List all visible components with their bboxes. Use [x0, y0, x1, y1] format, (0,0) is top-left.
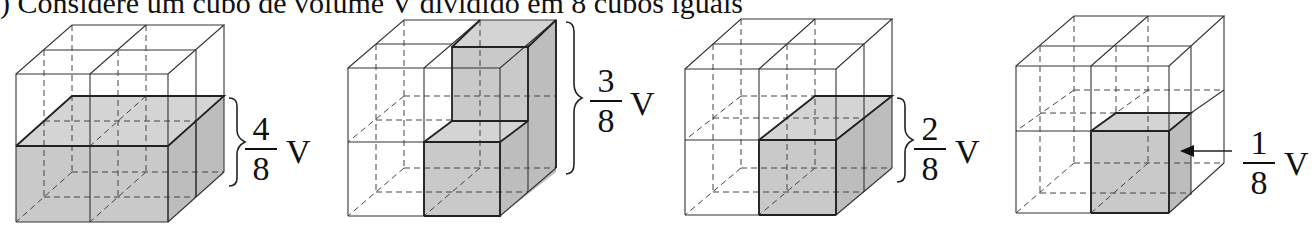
cube-two — [685, 19, 913, 215]
fraction-numerator: 3 — [590, 64, 622, 98]
cubes-figure: .e { stroke: #333; stroke-width: 1.1; fi… — [0, 0, 1312, 225]
fraction-label-one: 1 8 — [1243, 126, 1275, 200]
volume-symbol: V — [630, 85, 655, 123]
fraction-numerator: 1 — [1243, 126, 1275, 160]
cube-half — [16, 25, 245, 222]
fraction-numerator: 2 — [914, 112, 946, 146]
cube-one — [1016, 16, 1232, 213]
fraction-label-half: 4 8 — [245, 112, 277, 186]
fraction-label-three: 3 8 — [590, 64, 622, 138]
fraction-label-two: 2 8 — [914, 112, 946, 186]
volume-symbol: V — [286, 133, 311, 171]
fraction-denominator: 8 — [245, 152, 277, 186]
volume-symbol: V — [955, 133, 980, 171]
volume-symbol: V — [1284, 145, 1309, 183]
fraction-numerator: 4 — [245, 112, 277, 146]
fraction-denominator: 8 — [590, 104, 622, 138]
fraction-denominator: 8 — [914, 152, 946, 186]
cube-three — [348, 20, 582, 216]
fraction-denominator: 8 — [1243, 166, 1275, 200]
